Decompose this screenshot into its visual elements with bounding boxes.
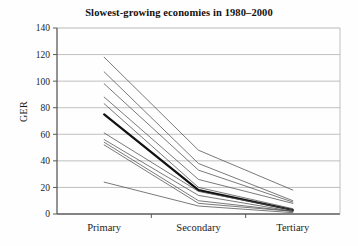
line-chart-plot: 020406080100120140 PrimarySecondaryTerti… (0, 0, 358, 246)
x-tick-label: Tertiary (276, 222, 310, 233)
x-tick-label: Secondary (176, 222, 221, 233)
y-tick-label: 80 (41, 103, 51, 113)
y-tick-label: 60 (41, 130, 51, 140)
series-line (104, 133, 293, 210)
y-tick-labels-group: 020406080100120140 (36, 23, 51, 219)
series-line (104, 142, 293, 211)
axis-lines-group (57, 28, 340, 214)
y-tick-label: 140 (36, 23, 51, 33)
x-tick-label: Primary (87, 222, 122, 233)
y-tick-label: 20 (41, 183, 51, 193)
chart-figure: Slowest-growing economies in 1980–2000 G… (0, 0, 358, 246)
y-tick-label: 100 (36, 77, 51, 87)
series-lines-group (104, 57, 293, 212)
y-tick-label: 120 (36, 50, 51, 60)
y-tick-label: 0 (45, 209, 50, 219)
y-tick-label: 40 (41, 156, 51, 166)
x-tick-labels-group: PrimarySecondaryTertiary (87, 222, 310, 233)
series-line (104, 84, 293, 202)
